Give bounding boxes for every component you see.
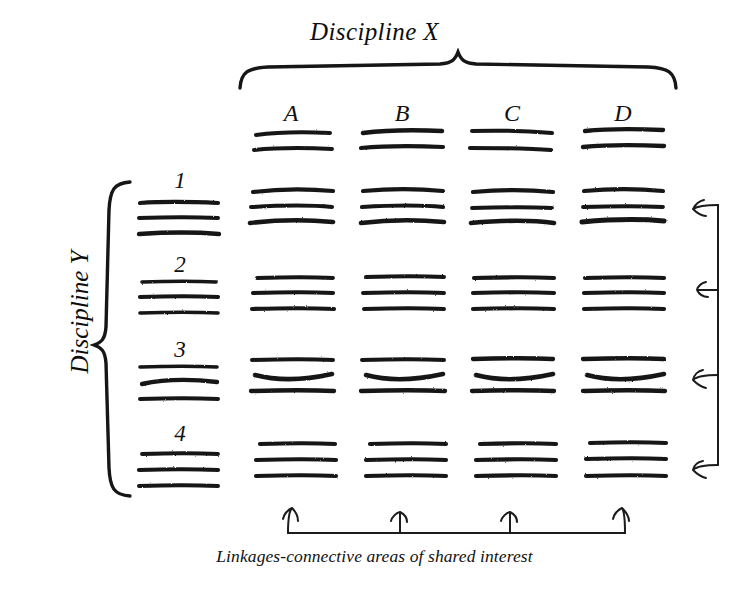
scribble-header-C [470,131,552,150]
scribble-cell-2-C [473,277,554,309]
scribble-cell-3-D [583,358,665,391]
scribble-header-A [254,132,332,150]
scribble-header-B [361,130,443,148]
scribble-cell-1-D [582,189,664,222]
bottom-arrow-C [501,512,517,533]
left-brace [94,182,130,496]
column-header-b[interactable]: B [347,100,457,127]
right-arrow-2 [697,282,718,297]
scribble-cell-4-B [366,443,446,476]
scribble-rowlabel-3 [140,366,218,399]
column-header-a[interactable]: A [236,100,346,127]
diagram-vector-layer [0,0,749,592]
scribble-cell-1-B [361,189,444,223]
right-arrow-1 [693,200,718,216]
scribble-cell-3-B [361,359,445,391]
right-arrow-3 [693,370,718,388]
scribble-cell-4-A [256,443,336,476]
row-header-2[interactable]: 2 [150,252,210,278]
bottom-linkage-arrows [283,508,629,533]
scribble-rowlabel-4 [139,453,218,486]
linkages-caption: Linkages-connective areas of shared inte… [0,546,749,567]
column-header-d[interactable]: D [568,100,678,127]
bottom-arrow-B [391,512,407,533]
right-arrow-4 [693,461,718,478]
row-header-3[interactable]: 3 [150,337,210,363]
discipline-x-title: Discipline X [0,18,749,46]
scribble-cell-1-C [471,190,554,223]
column-header-c[interactable]: C [457,100,567,127]
scribble-cell-2-B [363,276,444,309]
scribble-header-D [583,129,664,147]
figure-canvas: Discipline X Discipline Y A B C D 1 2 3 … [0,0,749,592]
right-linkage-arrows [693,200,718,478]
scribble-cell-1-A [250,189,333,223]
scribble-cell-4-D [586,442,666,476]
row-header-1[interactable]: 1 [150,168,210,194]
row-header-4[interactable]: 4 [150,421,210,447]
scribble-cell-3-C [472,358,554,391]
scribble-cell-4-C [476,443,556,476]
scribble-cell-3-A [251,359,334,391]
bottom-arrow-D [613,508,629,533]
top-brace [240,52,676,88]
scribble-cell-2-A [252,277,334,309]
scribble-strokes [139,129,666,486]
scribble-cell-2-D [584,277,664,309]
scribble-rowlabel-2 [140,281,218,313]
scribble-rowlabel-1 [139,202,219,234]
bottom-arrow-A [283,508,298,533]
